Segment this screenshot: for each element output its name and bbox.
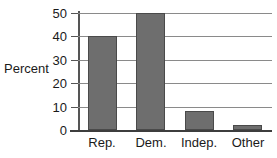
x-axis-line [70,130,272,132]
bar-chart: Percent 01020304050 Rep.Dem.Indep.Other [0,0,277,158]
y-tick-label-40: 40 [53,30,67,43]
y-tick-label-10: 10 [53,101,67,114]
plot-area [78,13,272,130]
x-tick-label-dem: Dem. [135,136,166,150]
x-tick-label-rep: Rep. [88,136,115,150]
bar-indep [185,111,214,130]
y-tick-label-20: 20 [53,77,67,90]
y-tick-label-50: 50 [53,7,67,20]
y-axis-tick-labels: 01020304050 [0,0,71,158]
y-tick-label-0: 0 [60,124,67,137]
bar-other [233,125,262,130]
x-tick-label-other: Other [232,136,265,150]
bar-dem [136,13,165,130]
bar-rep [88,36,117,130]
gridline-50 [78,13,272,14]
y-axis-title: Percent [4,62,66,76]
x-tick-label-indep: Indep. [181,136,217,150]
